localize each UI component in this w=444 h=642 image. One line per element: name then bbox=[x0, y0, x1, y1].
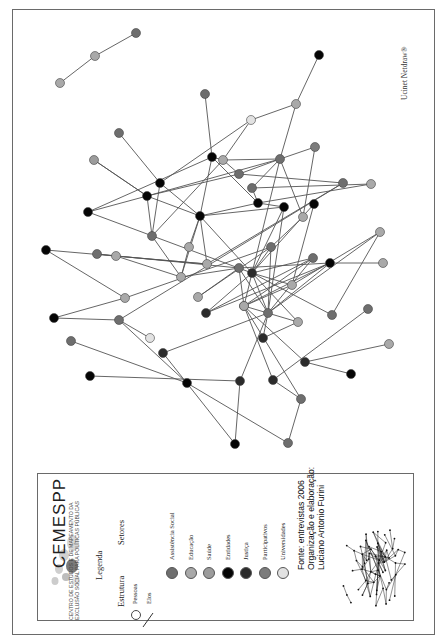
thumbnail-node bbox=[373, 581, 375, 583]
thumbnail-node bbox=[382, 571, 384, 573]
thumbnail-node bbox=[361, 553, 363, 555]
network-node bbox=[259, 334, 268, 343]
edge-line bbox=[60, 56, 95, 83]
thumbnail-node bbox=[397, 549, 399, 551]
thumbnail-node bbox=[350, 602, 352, 604]
network-node bbox=[311, 143, 320, 152]
sector-label: Entidades bbox=[224, 534, 231, 560]
nodes-layer bbox=[42, 29, 394, 449]
thumbnail-node bbox=[365, 539, 367, 541]
edge-line bbox=[46, 250, 207, 264]
thumbnail-edge bbox=[391, 564, 405, 580]
thumbnail-node bbox=[368, 546, 370, 548]
thumbnail-node bbox=[377, 542, 379, 544]
thumbnail-node bbox=[376, 546, 378, 548]
structure-heading: Estrutura bbox=[116, 576, 126, 607]
edge-line bbox=[152, 183, 160, 236]
edge-line bbox=[54, 318, 119, 320]
network-node bbox=[156, 179, 165, 188]
network-node bbox=[301, 358, 310, 367]
network-node bbox=[90, 156, 99, 165]
thumbnail-edge bbox=[373, 532, 385, 543]
edge-line bbox=[239, 174, 343, 183]
network-node bbox=[183, 379, 192, 388]
thumbnail-node bbox=[384, 556, 386, 558]
network-node bbox=[310, 200, 319, 209]
network-node bbox=[50, 314, 59, 323]
thumbnail-node bbox=[392, 548, 394, 550]
sector-swatch bbox=[166, 567, 178, 579]
network-node bbox=[294, 318, 303, 327]
edge-line bbox=[263, 322, 298, 338]
thumbnail-node bbox=[364, 562, 366, 564]
thumbnail-node bbox=[404, 552, 406, 554]
edge-line bbox=[288, 399, 301, 443]
edge-line bbox=[119, 320, 187, 383]
sector-swatch bbox=[203, 567, 215, 579]
edge-line bbox=[147, 159, 280, 196]
edges-layer bbox=[46, 33, 389, 444]
network-node bbox=[201, 90, 210, 99]
thumbnail-node bbox=[379, 575, 381, 577]
edge-line bbox=[223, 120, 251, 160]
network-node bbox=[236, 377, 245, 386]
network-node bbox=[67, 337, 76, 346]
edge-line bbox=[119, 320, 150, 338]
thumbnail-edge bbox=[362, 567, 373, 583]
sector-swatch bbox=[259, 567, 271, 579]
thumbnail-node bbox=[360, 546, 362, 548]
thumbnail-node bbox=[361, 568, 363, 570]
edge-line bbox=[273, 380, 301, 399]
thumbnail-node bbox=[356, 560, 358, 562]
thumbnail-edge bbox=[396, 552, 405, 574]
thumbnail-node bbox=[365, 580, 367, 582]
network-node bbox=[315, 51, 324, 60]
thumbnail-node bbox=[385, 603, 387, 605]
thumbnail-node bbox=[404, 563, 406, 565]
line-icon bbox=[141, 611, 155, 629]
network-node bbox=[208, 153, 217, 162]
thumbnail-node bbox=[395, 562, 397, 564]
network-node bbox=[254, 199, 263, 208]
thumbnail-edge bbox=[362, 569, 371, 572]
credits: Fonte: entrevistas 2006 Organização e el… bbox=[296, 467, 326, 570]
sectors-heading: Setores bbox=[116, 520, 126, 545]
thumbnail-edge bbox=[395, 550, 398, 556]
sector-label: Educação bbox=[187, 535, 194, 560]
thumbnail-node bbox=[386, 549, 388, 551]
network-node bbox=[56, 79, 65, 88]
thumbnail-edge bbox=[354, 551, 362, 555]
network-node bbox=[280, 203, 289, 212]
structure-item-pessoas: Pessoas bbox=[131, 584, 138, 604]
edge-line bbox=[88, 196, 147, 212]
thumbnail-node bbox=[377, 531, 379, 533]
sector-label: Universidades bbox=[279, 523, 286, 560]
network-node bbox=[240, 302, 249, 311]
network-node bbox=[194, 293, 203, 302]
thumbnail-node bbox=[394, 555, 396, 557]
edge-line bbox=[88, 212, 252, 273]
thumbnail-edge bbox=[386, 575, 395, 590]
network-node bbox=[376, 228, 385, 237]
thumbnail-node bbox=[353, 550, 355, 552]
thumbnail-node bbox=[388, 582, 390, 584]
thumbnail-edge bbox=[347, 546, 354, 551]
network-node bbox=[143, 192, 152, 201]
network-node bbox=[235, 264, 244, 273]
network-node bbox=[288, 281, 297, 290]
edge-line bbox=[251, 104, 296, 120]
legend-title: Legenda bbox=[94, 551, 104, 580]
network-node bbox=[185, 243, 194, 252]
edge-line bbox=[268, 263, 330, 313]
network-node bbox=[148, 232, 157, 241]
thumbnail-node bbox=[362, 594, 364, 596]
edge-line bbox=[147, 196, 152, 236]
edge-line bbox=[119, 133, 160, 183]
thumbnail-node bbox=[365, 533, 367, 535]
network-node bbox=[247, 116, 256, 125]
network-node bbox=[379, 259, 388, 268]
edge-line bbox=[296, 55, 319, 104]
network-node bbox=[115, 316, 124, 325]
sector-swatch bbox=[222, 567, 234, 579]
sector-label: Participativos bbox=[261, 524, 268, 560]
